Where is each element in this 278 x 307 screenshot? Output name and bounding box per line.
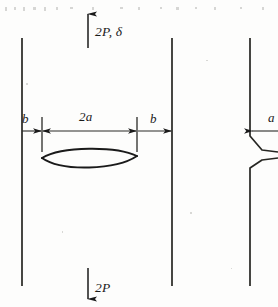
- diagram-drawing: [0, 0, 278, 307]
- label-ligament-b-right: b: [150, 112, 157, 125]
- paper-speck: [206, 60, 208, 61]
- label-top-load: 2P, δ: [95, 25, 122, 39]
- label-crack-length-2a: 2a: [79, 110, 92, 123]
- label-edge-crack-a: a: [268, 111, 275, 124]
- right-plate-boundary: [250, 38, 278, 286]
- label-ligament-b-left: b: [22, 112, 29, 125]
- label-bottom-load: 2P: [95, 281, 110, 295]
- left-plate-boundaries: [22, 38, 172, 286]
- internal-crack-lens: [42, 149, 137, 168]
- dimension-line-group: [22, 117, 171, 152]
- paper-speck: [26, 83, 28, 85]
- paper-speck: [231, 268, 232, 269]
- paper-speck: [190, 212, 192, 214]
- paper-speck: [62, 231, 63, 233]
- figure-canvas: 2P, δ 2P b 2a b a: [0, 0, 278, 307]
